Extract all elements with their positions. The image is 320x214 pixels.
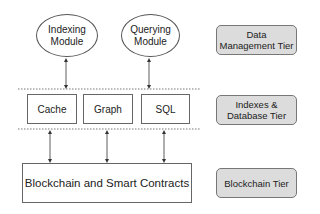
sql-label: SQL <box>155 104 175 115</box>
querying-module-line1: Querying <box>130 24 171 35</box>
blockchain-box: Blockchain and Smart Contracts <box>22 163 192 203</box>
cache-box: Cache <box>27 94 77 124</box>
tier-label-line1: Data <box>246 29 266 40</box>
tier-label-line1: Indexes & <box>235 99 277 110</box>
tier-label-line2: Database Tier <box>227 110 286 121</box>
indexing-module: IndexingModule <box>36 14 98 57</box>
querying-module-line2: Module <box>134 36 167 47</box>
graph-box: Graph <box>83 94 133 124</box>
blockchain-label: Blockchain and Smart Contracts <box>25 177 189 189</box>
cache-label: Cache <box>38 104 67 115</box>
querying-module: QueryingModule <box>121 14 180 57</box>
sql-box: SQL <box>141 94 190 124</box>
tier-indexes-database: Indexes &Database Tier <box>216 95 297 125</box>
indexing-module-line1: Indexing <box>48 24 86 35</box>
graph-label: Graph <box>94 104 122 115</box>
tier-label: Blockchain Tier <box>224 178 288 189</box>
tier-blockchain: Blockchain Tier <box>216 168 297 198</box>
tier-data-management: DataManagement Tier <box>216 25 297 55</box>
tier-label-line2: Management Tier <box>220 40 294 51</box>
indexing-module-line2: Module <box>51 36 84 47</box>
